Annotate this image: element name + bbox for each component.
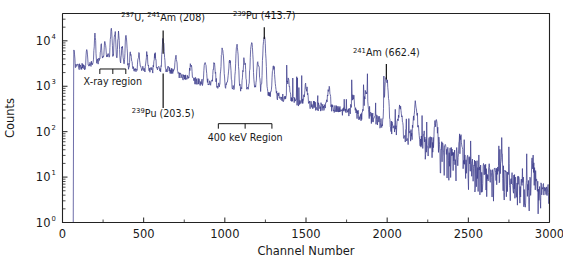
x-tick-label-0: 0	[59, 227, 66, 241]
svg-text:10: 10	[36, 125, 51, 139]
x-tick-label-2000: 2000	[373, 227, 402, 241]
svg-text:3: 3	[52, 78, 56, 86]
plot-frame-top-right	[63, 14, 550, 223]
x-ray-region-bracket	[100, 69, 126, 74]
x-axis-title: Channel Number	[257, 244, 354, 258]
svg-text:4: 4	[52, 33, 56, 41]
y-tick-label-3: 103	[36, 78, 56, 93]
svg-text:10: 10	[36, 34, 51, 48]
svg-text:0: 0	[52, 215, 56, 223]
svg-text:1: 1	[52, 169, 56, 177]
y-axis-title: Counts	[3, 98, 17, 138]
svg-text:10: 10	[36, 170, 51, 184]
pu-413-label: 239Pu (413.7)	[233, 10, 296, 22]
spectrum-trace	[63, 28, 550, 234]
gamma-spectrum-chart: 050010001500200025003000100101102103104C…	[0, 0, 563, 267]
kev-400-region-bracket	[218, 124, 272, 129]
x-tick-label-1000: 1000	[210, 227, 239, 241]
y-tick-label-2: 102	[36, 124, 56, 139]
spectrum-trace-group	[63, 28, 550, 234]
x-tick-label-3000: 3000	[535, 227, 563, 241]
plot-frame-left-bottom	[63, 14, 550, 223]
x-tick-label-500: 500	[133, 227, 155, 241]
kev-400-region-label: 400 keV Region	[208, 132, 283, 143]
x-tick-label-2500: 2500	[454, 227, 483, 241]
pu-203-label: 239Pu (203.5)	[132, 107, 195, 119]
y-tick-label-4: 104	[36, 33, 56, 48]
u237-am241-208-label: 237U, 241Am (208)	[121, 11, 205, 23]
x-tick-label-1500: 1500	[291, 227, 320, 241]
svg-text:2: 2	[52, 124, 56, 132]
y-tick-label-0: 100	[36, 215, 56, 230]
am-662-label: 241Am (662.4)	[353, 47, 420, 59]
x-ray-region-label: X-ray region	[84, 76, 142, 87]
figure-container: 050010001500200025003000100101102103104C…	[0, 0, 563, 267]
svg-text:10: 10	[36, 79, 51, 93]
y-tick-label-1: 101	[36, 169, 56, 184]
svg-text:10: 10	[36, 216, 51, 230]
